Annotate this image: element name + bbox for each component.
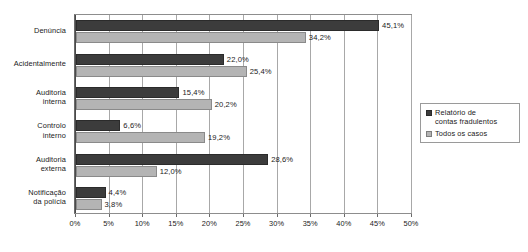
category-label: Auditoriainterna	[0, 88, 66, 106]
category-label: Notificaçãoda polícia	[0, 188, 66, 206]
y-axis-line	[75, 15, 76, 213]
bar-value-label: 15,4%	[182, 87, 204, 98]
bar-value-label: 34,2%	[309, 32, 331, 43]
x-tick-mark	[243, 214, 244, 217]
bar-value-label: 12,0%	[160, 166, 182, 177]
bar	[76, 20, 379, 31]
gridline	[277, 15, 278, 213]
x-tick-label: 20%	[202, 219, 217, 228]
bar-value-label: 28,6%	[271, 154, 293, 165]
gridline	[344, 15, 345, 213]
bar-value-label: 19,2%	[208, 132, 230, 143]
legend-item[interactable]: Relatório decontas fradulentos	[426, 108, 515, 127]
bar-group: 45,1%34,2%	[76, 20, 411, 43]
bar-value-label: 6,6%	[123, 120, 141, 131]
bar	[76, 187, 106, 198]
category-label: Denúncia	[0, 26, 66, 35]
x-tick-label: 50%	[403, 219, 418, 228]
x-tick-label: 35%	[303, 219, 318, 228]
bar	[76, 87, 179, 98]
bar-group: 4,4%3,8%	[76, 187, 411, 210]
gridline	[411, 15, 412, 213]
x-tick-label: 15%	[168, 219, 183, 228]
bar-group: 22,0%25,4%	[76, 54, 411, 77]
gridline	[310, 15, 311, 213]
bar-group: 15,4%20,2%	[76, 87, 411, 110]
x-tick-label: 30%	[269, 219, 284, 228]
x-tick-mark	[411, 214, 412, 217]
bar	[76, 32, 306, 43]
x-tick-label: 40%	[336, 219, 351, 228]
legend-swatch-icon	[426, 110, 432, 116]
gridline	[209, 15, 210, 213]
gridline	[142, 15, 143, 213]
bar	[76, 132, 205, 143]
plot-area: 45,1%34,2%22,0%25,4%15,4%20,2%6,6%19,2%2…	[74, 14, 412, 214]
bar	[76, 154, 268, 165]
bar-chart: DenúnciaAcidentalmenteAuditoriainternaCo…	[0, 0, 528, 252]
x-axis-ticks: 0%5%10%15%20%25%30%35%40%45%50%	[74, 216, 412, 232]
bar	[76, 166, 157, 177]
chart-legend: Relatório decontas fradulentosTodos os c…	[420, 103, 520, 143]
x-tick-mark	[344, 214, 345, 217]
x-tick-label: 10%	[135, 219, 150, 228]
bar	[76, 120, 120, 131]
gridline	[176, 15, 177, 213]
bar	[76, 199, 102, 210]
gridline	[243, 15, 244, 213]
legend-swatch-icon	[426, 131, 432, 137]
bar	[76, 54, 224, 65]
bar	[76, 99, 212, 110]
legend-item[interactable]: Todos os casos	[426, 129, 515, 138]
category-label: Auditoriaexterna	[0, 155, 66, 173]
x-tick-mark	[310, 214, 311, 217]
gridline	[377, 15, 378, 213]
x-tick-label: 0%	[70, 219, 81, 228]
category-label: Acidentalmente	[0, 59, 66, 68]
bar	[76, 66, 247, 77]
bar-value-label: 22,0%	[227, 54, 249, 65]
legend-label: Todos os casos	[435, 129, 487, 138]
bar-value-label: 45,1%	[382, 20, 404, 31]
bar-value-label: 4,4%	[109, 187, 127, 198]
x-tick-mark	[377, 214, 378, 217]
x-tick-mark	[209, 214, 210, 217]
x-tick-mark	[176, 214, 177, 217]
x-tick-mark	[142, 214, 143, 217]
x-tick-mark	[277, 214, 278, 217]
bar-group: 6,6%19,2%	[76, 120, 411, 143]
gridline	[109, 15, 110, 213]
x-tick-mark	[109, 214, 110, 217]
x-tick-label: 25%	[235, 219, 250, 228]
category-axis-labels: DenúnciaAcidentalmenteAuditoriainternaCo…	[0, 14, 70, 214]
bar-value-label: 25,4%	[250, 66, 272, 77]
x-tick-mark	[75, 214, 76, 217]
bar-value-label: 20,2%	[215, 99, 237, 110]
bar-value-label: 3,8%	[105, 199, 123, 210]
bar-group: 28,6%12,0%	[76, 154, 411, 177]
category-label: Controlointerno	[0, 121, 66, 139]
legend-label: Relatório decontas fradulentos	[435, 108, 497, 127]
x-tick-label: 5%	[103, 219, 114, 228]
x-tick-label: 45%	[370, 219, 385, 228]
